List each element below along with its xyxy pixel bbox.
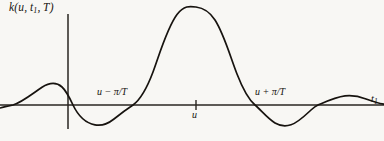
y-axis-label-close-paren: ): [50, 1, 54, 13]
y-axis-label-T: T: [43, 1, 50, 13]
left-null-label: u − π/T: [97, 87, 127, 97]
kernel-curve: [0, 7, 384, 126]
y-axis-label-comma2: ,: [38, 1, 41, 13]
x-axis-label: t1: [371, 94, 378, 106]
y-axis-label: k(u, t1, T): [9, 2, 54, 15]
right-null-label: u + π/T: [255, 87, 285, 97]
x-axis-label-subscript: 1: [374, 97, 378, 106]
center-tick-label: u: [192, 110, 197, 120]
kernel-function-figure: k(u, t1, T) u − π/T u + π/T u t1: [0, 0, 384, 141]
y-axis-label-comma1: ,: [24, 1, 27, 13]
